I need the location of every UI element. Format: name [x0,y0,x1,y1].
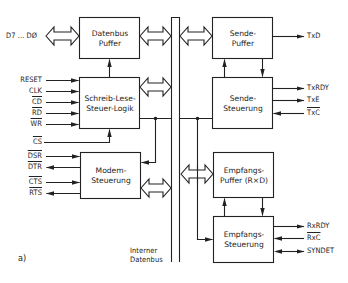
signal-cts: CTS [4,178,42,185]
block-label-line: Puffer [232,39,254,49]
bus-label-line: Interner [130,246,163,255]
block-label-line: Datenbus [92,29,129,39]
block-label-line: Empfangs- [224,166,265,176]
signal-dsr: DSR [4,152,42,159]
block-label-line: Steuerung [224,240,264,250]
signal-reset: RESET [4,76,42,83]
modem-label: Modem- Steuerung [81,153,141,199]
block-label-line: Steuerung [91,176,131,186]
signal-rd: RD [4,109,42,116]
junction-dot [196,117,200,121]
datenbus-puffer-label: Datenbus Puffer [80,18,140,59]
junction-dot [154,117,158,121]
signal-clk: CLK [4,87,42,94]
block-label-line: Steuer-Logik [86,104,133,114]
signal-dtr: DTR [4,163,42,170]
signal-txe: TxE [307,96,320,103]
figure-label: a) [18,254,26,263]
signal-cs: CS [4,138,42,145]
internal-bus-label: Interner Datenbus [130,246,163,264]
block-label-line: Modem- [96,166,127,176]
block-label-line: Sende- [230,29,257,39]
block-label-line: Steuerung [223,104,263,114]
internal-bus [172,18,180,263]
signal-rts: RTS [4,189,42,196]
signal-cd: CD [4,98,42,105]
signal-txd: TxD [307,32,320,39]
signal-data-bus: D7 ... DØ [6,32,37,39]
block-label-line: Schreib-Lese- [84,94,135,104]
usart-block-diagram: Datenbus Puffer Schreib-Lese- Steuer-Log… [0,0,348,283]
empfangs-steuerung-label: Empfangs- Steuerung [214,217,274,263]
block-label-line: Puffer (R×D) [220,176,268,186]
signal-rxrdy: RxRDY [307,222,329,229]
schreib-lese-label: Schreib-Lese- Steuer-Logik [80,78,140,129]
signal-syndet: SYNDET [307,247,334,254]
data-bus-arrow [46,27,79,45]
diagram-lines [0,0,348,283]
bus-label-line: Datenbus [130,255,163,264]
signal-txrdy: TxRDY [307,84,329,91]
empfangs-puffer-label: Empfangs- Puffer (R×D) [214,153,274,198]
signal-rxc: RxC [307,234,321,241]
signal-txc: TxC [307,109,320,116]
sende-steuerung-label: Sende- Steuerung [213,78,273,129]
signal-wr: WR [4,120,42,127]
block-label-line: Puffer [99,39,121,49]
sende-puffer-label: Sende- Puffer [213,18,273,59]
block-label-line: Empfangs- [224,230,265,240]
block-label-line: Sende- [230,94,257,104]
